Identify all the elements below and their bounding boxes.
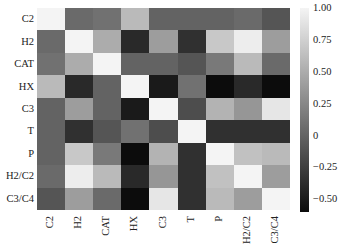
y-axis-label: H2 xyxy=(21,37,34,48)
heatmap-cell xyxy=(149,165,178,188)
heatmap-cell xyxy=(178,143,207,166)
heatmap-cell xyxy=(121,98,150,121)
heatmap-cell xyxy=(178,188,207,211)
heatmap-cell xyxy=(234,120,263,143)
x-axis-label: C2 xyxy=(45,216,56,228)
heatmap-cell xyxy=(206,143,235,166)
heatmap-cell xyxy=(37,53,66,76)
heatmap-cell xyxy=(206,8,235,31)
heatmap-cell xyxy=(37,188,66,211)
heatmap-cell xyxy=(262,53,291,76)
heatmap-cell xyxy=(121,8,150,31)
y-axis-label: HX xyxy=(19,82,34,93)
heatmap-cell xyxy=(178,165,207,188)
heatmap-cell xyxy=(65,30,94,53)
heatmap-cell xyxy=(93,120,122,143)
heatmap-cell xyxy=(37,75,66,98)
heatmap-cell xyxy=(262,120,291,143)
heatmap-cell xyxy=(149,8,178,31)
heatmap-cell xyxy=(206,75,235,98)
heatmap-cell xyxy=(93,143,122,166)
x-axis-label: C3/C4 xyxy=(270,216,281,243)
heatmap-cell xyxy=(121,75,150,98)
heatmap-cell xyxy=(93,53,122,76)
x-axis-label: T xyxy=(186,216,197,222)
heatmap-cell xyxy=(149,143,178,166)
x-axis-label: H2/C2 xyxy=(242,216,253,244)
heatmap-cell xyxy=(121,53,150,76)
heatmap-cell xyxy=(234,53,263,76)
heatmap-cell xyxy=(93,98,122,121)
heatmap-cell xyxy=(65,120,94,143)
heatmap-cell xyxy=(65,75,94,98)
heatmap-cell xyxy=(149,75,178,98)
heatmap-cell xyxy=(262,30,291,53)
y-axis-label: H2/C2 xyxy=(6,171,34,182)
heatmap-cell xyxy=(234,8,263,31)
y-axis-label: P xyxy=(28,149,34,160)
heatmap-cell xyxy=(149,30,178,53)
y-axis-label: T xyxy=(28,126,34,137)
x-axis-label: P xyxy=(214,216,225,222)
heatmap-cell xyxy=(65,8,94,31)
heatmap-cell xyxy=(93,75,122,98)
heatmap-cell xyxy=(178,98,207,121)
heatmap-cell xyxy=(121,30,150,53)
heatmap-cell xyxy=(178,120,207,143)
colorbar-tick-label: 1.00 xyxy=(313,3,331,14)
heatmap-cell xyxy=(65,98,94,121)
heatmap-cell xyxy=(234,75,263,98)
heatmap-cell xyxy=(234,98,263,121)
heatmap-cell xyxy=(65,143,94,166)
y-axis-label: C3 xyxy=(22,104,34,115)
heatmap-cell xyxy=(206,120,235,143)
heatmap-cell xyxy=(149,188,178,211)
y-axis-label: CAT xyxy=(14,59,34,70)
heatmap-cell xyxy=(234,143,263,166)
heatmap-cell xyxy=(206,165,235,188)
heatmap-cell xyxy=(93,188,122,211)
heatmap-cell xyxy=(37,165,66,188)
heatmap-cell xyxy=(93,8,122,31)
colorbar-tick-label: −0.50 xyxy=(313,194,337,205)
heatmap-cell xyxy=(149,98,178,121)
colorbar xyxy=(300,8,309,212)
heatmap-cell xyxy=(262,8,291,31)
heatmap-cell xyxy=(121,143,150,166)
heatmap-cell xyxy=(262,165,291,188)
heatmap-cell xyxy=(262,98,291,121)
x-axis-label: CAT xyxy=(101,216,112,236)
colorbar-tick-label: 0.75 xyxy=(313,35,331,46)
colorbar-tick-label: 0 xyxy=(313,131,318,142)
heatmap-cell xyxy=(121,120,150,143)
heatmap-cell xyxy=(262,143,291,166)
heatmap-cell xyxy=(206,53,235,76)
x-axis-label: HX xyxy=(129,216,140,231)
correlation-heatmap: C2H2CATHXC3TPH2/C2C3/C4 C2H2CATHXC3TPH2/… xyxy=(0,0,340,249)
heatmap-cell xyxy=(93,30,122,53)
heatmap-cell xyxy=(178,30,207,53)
heatmap-cell xyxy=(206,98,235,121)
colorbar-tick-label: 0.25 xyxy=(313,99,331,110)
heatmap-cell xyxy=(149,53,178,76)
heatmap-cell xyxy=(206,188,235,211)
heatmap-cell xyxy=(65,53,94,76)
heatmap-cell xyxy=(37,120,66,143)
heatmap-cell xyxy=(37,30,66,53)
heatmap-cell xyxy=(65,188,94,211)
heatmap-cell xyxy=(234,188,263,211)
heatmap-cell xyxy=(178,75,207,98)
heatmap-cell xyxy=(37,143,66,166)
heatmap-cell xyxy=(178,8,207,31)
heatmap-cell xyxy=(262,188,291,211)
heatmap-cell xyxy=(37,8,66,31)
heatmap-cell xyxy=(65,165,94,188)
colorbar-tick-label: 0.50 xyxy=(313,67,331,78)
y-axis-label: C2 xyxy=(22,14,34,25)
x-axis-label: H2 xyxy=(73,216,84,229)
x-axis-label: C3 xyxy=(158,216,169,228)
heatmap-cell xyxy=(93,165,122,188)
heatmap-cell xyxy=(121,165,150,188)
colorbar-tick-label: −0.25 xyxy=(313,162,337,173)
heatmap-cell xyxy=(149,120,178,143)
